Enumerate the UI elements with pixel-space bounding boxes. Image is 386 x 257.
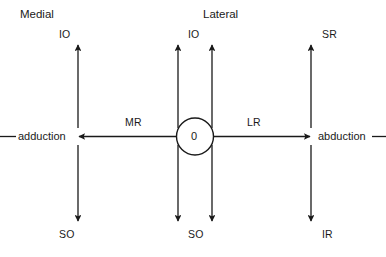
label-adduction: adduction (18, 131, 66, 142)
eye-muscle-action-diagram: Medial Lateral IO IO SR SO SO IR adducti… (0, 0, 386, 257)
label-abduction: abduction (318, 131, 366, 142)
label-lateral-top-sr: SR (322, 29, 337, 40)
label-lateral-bottom-ir: IR (322, 229, 333, 240)
label-origin-zero: 0 (191, 131, 197, 142)
label-center-bottom-so: SO (188, 229, 204, 240)
header-medial: Medial (20, 9, 54, 21)
label-lr: LR (247, 117, 261, 128)
label-medial-bottom-so: SO (59, 229, 75, 240)
header-lateral: Lateral (203, 9, 238, 21)
label-center-top-io: IO (188, 29, 200, 40)
label-medial-top-io: IO (59, 29, 71, 40)
label-mr: MR (125, 117, 142, 128)
